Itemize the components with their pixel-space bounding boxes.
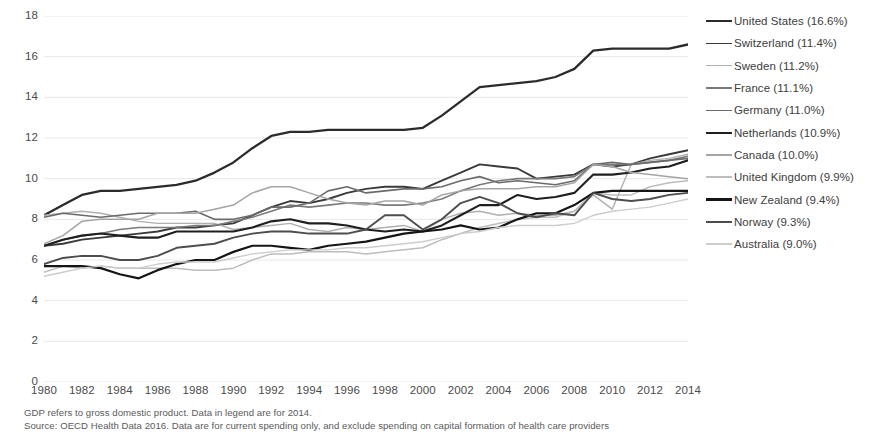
- legend-item[interactable]: Netherlands (10.9%): [706, 121, 869, 143]
- footnote-line: Source: OECD Health Data 2016. Data are …: [24, 419, 869, 432]
- legend-line-swatch: [706, 43, 732, 45]
- y-tick-label: 2: [12, 335, 38, 346]
- legend-line-swatch: [706, 87, 732, 89]
- legend-item-label: Netherlands (10.9%): [734, 127, 840, 139]
- legend-item[interactable]: Canada (10.0%): [706, 144, 869, 166]
- x-tick-label: 2000: [403, 384, 443, 397]
- legend-item-label: Switzerland (11.4%): [734, 37, 837, 49]
- x-tick-label: 1996: [327, 384, 367, 397]
- y-tick-label: 14: [12, 91, 38, 102]
- series-line-switzerland: [44, 150, 688, 246]
- y-tick-label: 4: [12, 295, 38, 306]
- x-tick-label: 1992: [251, 384, 291, 397]
- legend-item-label: United States (16.6%): [734, 15, 848, 27]
- legend-line-swatch: [706, 154, 732, 156]
- legend-item[interactable]: Sweden (11.2%): [706, 55, 869, 77]
- y-tick-label: 12: [12, 132, 38, 143]
- legend-line-swatch: [706, 198, 732, 200]
- legend-item[interactable]: Norway (9.3%): [706, 211, 869, 233]
- x-tick-label: 2012: [630, 384, 670, 397]
- x-tick-label: 1990: [213, 384, 253, 397]
- y-tick-label: 6: [12, 254, 38, 265]
- y-tick-label: 16: [12, 51, 38, 62]
- x-tick-label: 2008: [554, 384, 594, 397]
- legend-item[interactable]: New Zealand (9.4%): [706, 188, 869, 210]
- legend-line-swatch: [706, 176, 732, 178]
- legend-item[interactable]: Australia (9.0%): [706, 233, 869, 255]
- legend-item-label: Norway (9.3%): [734, 216, 811, 228]
- legend-line-swatch: [706, 132, 732, 134]
- x-tick-label: 2002: [441, 384, 481, 397]
- legend-item-label: Sweden (11.2%): [734, 60, 819, 72]
- legend-item-label: United Kingdom (9.9%): [734, 171, 854, 183]
- x-tick-label: 2014: [668, 384, 708, 397]
- legend-line-swatch: [706, 110, 732, 112]
- legend-item-label: Australia (9.0%): [734, 238, 817, 250]
- x-tick-label: 1988: [176, 384, 216, 397]
- legend-line-swatch: [706, 221, 732, 223]
- x-tick-label: 2004: [479, 384, 519, 397]
- legend-item[interactable]: United Kingdom (9.9%): [706, 166, 869, 188]
- legend-item[interactable]: Switzerland (11.4%): [706, 32, 869, 54]
- y-tick-label: 8: [12, 213, 38, 224]
- x-tick-label: 1980: [24, 384, 64, 397]
- legend-item[interactable]: United States (16.6%): [706, 10, 869, 32]
- footnote-line: GDP refers to gross domestic product. Da…: [24, 406, 869, 419]
- y-tick-label: 10: [12, 173, 38, 184]
- y-axis: 181614121086420: [0, 0, 38, 400]
- chart-legend: United States (16.6%)Switzerland (11.4%)…: [706, 10, 869, 255]
- x-tick-label: 1998: [365, 384, 405, 397]
- x-tick-label: 1982: [62, 384, 102, 397]
- series-lines: [44, 44, 688, 278]
- y-tick-label: 18: [12, 10, 38, 21]
- gridlines: [44, 16, 688, 382]
- legend-item[interactable]: Germany (11.0%): [706, 99, 869, 121]
- legend-item-label: Germany (11.0%): [734, 104, 825, 116]
- x-tick-label: 2010: [592, 384, 632, 397]
- legend-item-label: Canada (10.0%): [734, 149, 818, 161]
- x-tick-label: 1984: [100, 384, 140, 397]
- legend-line-swatch: [706, 243, 732, 244]
- series-line-new-zealand: [44, 191, 688, 278]
- legend-item-label: France (11.1%): [734, 82, 813, 94]
- legend-item[interactable]: France (11.1%): [706, 77, 869, 99]
- x-tick-label: 1986: [138, 384, 178, 397]
- x-tick-label: 1994: [289, 384, 329, 397]
- line-chart-canvas: [44, 16, 688, 382]
- x-axis: 1980198219841986198819901992199419961998…: [44, 384, 688, 404]
- chart-figure: 181614121086420 198019821984198619881990…: [0, 0, 869, 448]
- series-line-france: [44, 156, 688, 245]
- plot-area: [44, 16, 688, 382]
- legend-item-label: New Zealand (9.4%): [734, 194, 840, 206]
- footnotes: GDP refers to gross domestic product. Da…: [24, 406, 869, 432]
- x-tick-label: 2006: [516, 384, 556, 397]
- legend-line-swatch: [706, 65, 732, 66]
- legend-line-swatch: [706, 20, 732, 22]
